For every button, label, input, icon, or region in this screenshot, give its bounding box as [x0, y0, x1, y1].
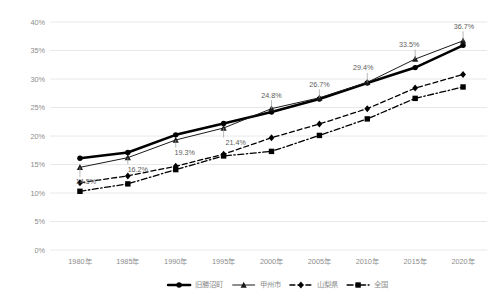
data-point-label: 19.3%: [175, 148, 196, 157]
y-axis-tick-labels: 0%5%10%15%20%25%30%35%40%: [30, 18, 45, 255]
data-point-marker-square: [221, 153, 226, 158]
y-axis-tick-label: 5%: [34, 217, 45, 226]
data-point-marker-square: [125, 181, 130, 186]
data-point-label: 26.7%: [309, 80, 330, 89]
data-point-marker-square: [317, 133, 322, 138]
y-axis-tick-label: 25%: [30, 103, 45, 112]
data-point-marker-square: [460, 84, 465, 89]
y-axis-tick-label: 15%: [30, 160, 45, 169]
legend-item-label[interactable]: 全国: [374, 280, 388, 289]
x-axis-tick-label: 2020年: [451, 257, 474, 266]
data-point-marker-diamond: [460, 71, 466, 78]
data-point-marker-circle: [77, 156, 82, 161]
data-point-marker-square: [173, 167, 178, 172]
data-point-label: 14.5%: [76, 177, 97, 186]
x-axis-tick-label: 2010年: [356, 257, 379, 266]
x-axis-tick-label: 1990年: [164, 257, 187, 266]
chart-container: 0%5%10%15%20%25%30%35%40% 1980年1985年1990…: [0, 0, 503, 306]
y-axis-tick-label: 40%: [30, 18, 45, 27]
data-point-marker-diamond: [364, 105, 370, 112]
x-axis-tick-label: 1995年: [212, 257, 235, 266]
data-point-label: 24.8%: [261, 91, 282, 100]
data-labels-group: 14.5%16.2%19.3%21.4%24.8%26.7%29.4%33.5%…: [76, 22, 475, 187]
x-axis-tick-labels: 1980年1985年1990年1995年2000年2005年2010年2015年…: [68, 257, 474, 266]
y-axis-tick-label: 35%: [30, 46, 45, 55]
data-point-label: 33.5%: [399, 40, 420, 49]
data-point-marker-circle: [176, 282, 181, 287]
y-axis-tick-label: 10%: [30, 189, 45, 198]
data-point-marker-diamond: [412, 85, 418, 92]
y-axis-tick-label: 20%: [30, 132, 45, 141]
chart-legend[interactable]: 旧勝沼町甲州市山梨県全国: [168, 280, 388, 289]
legend-item-label[interactable]: 甲州市: [260, 280, 281, 289]
data-point-marker-square: [355, 282, 360, 287]
y-axis-tick-label: 30%: [30, 75, 45, 84]
data-point-marker-square: [365, 116, 370, 121]
data-point-label: 36.7%: [454, 22, 475, 31]
data-point-label: 21.4%: [225, 138, 246, 147]
data-point-label: 16.2%: [128, 165, 149, 174]
data-point-marker-diamond: [298, 282, 304, 289]
data-point-marker-diamond: [269, 134, 275, 141]
data-point-marker-square: [412, 96, 417, 101]
x-axis-tick-label: 2015年: [404, 257, 427, 266]
data-point-marker-circle: [412, 65, 417, 70]
line-chart: 0%5%10%15%20%25%30%35%40% 1980年1985年1990…: [0, 0, 503, 306]
x-axis-tick-label: 1985年: [116, 257, 139, 266]
x-axis-tick-label: 2005年: [308, 257, 331, 266]
data-point-marker-diamond: [316, 121, 322, 128]
x-axis-tick-label: 1980年: [68, 257, 91, 266]
x-axis-tick-label: 2000年: [260, 257, 283, 266]
data-point-marker-square: [269, 149, 274, 154]
data-label-leaders: [80, 31, 463, 177]
legend-item-label[interactable]: 旧勝沼町: [195, 280, 223, 289]
y-axis-tick-label: 0%: [34, 246, 45, 255]
legend-item-label[interactable]: 山梨県: [317, 280, 338, 289]
data-point-marker-square: [77, 189, 82, 194]
data-point-label: 29.4%: [353, 63, 374, 72]
